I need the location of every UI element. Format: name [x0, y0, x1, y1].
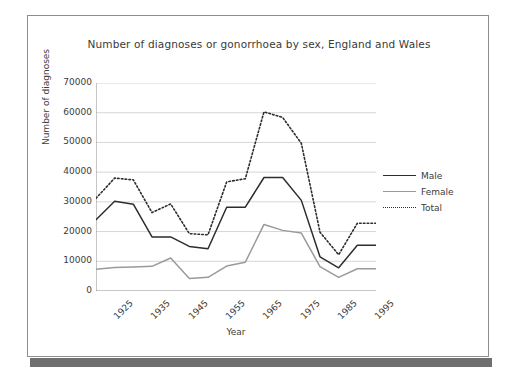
legend-item-female[interactable]: Female: [383, 184, 483, 200]
x-tick-label: 1955: [224, 298, 247, 321]
plot-area: [96, 83, 376, 291]
x-tick-label: 1965: [261, 298, 284, 321]
x-tick-label: 1975: [298, 298, 321, 321]
legend-swatch-total-icon: [383, 203, 416, 213]
series-line-male: [96, 177, 376, 267]
plot-svg: [96, 83, 376, 291]
chart-legend: MaleFemaleTotal: [383, 168, 483, 216]
legend-item-male[interactable]: Male: [383, 168, 483, 184]
x-tick-label: 1985: [336, 298, 359, 321]
slide-shadow: [30, 358, 492, 367]
legend-label: Female: [421, 187, 454, 197]
slide-card: Number of diagnoses or gonorrhoea by sex…: [27, 15, 489, 357]
x-tick-label: 1935: [149, 298, 172, 321]
series-line-female: [96, 224, 376, 278]
legend-label: Total: [421, 203, 442, 213]
legend-label: Male: [421, 171, 442, 181]
series-line-total: [96, 112, 376, 255]
x-tick-label: 1925: [112, 298, 135, 321]
legend-swatch-female-icon: [383, 187, 416, 197]
legend-swatch-male-icon: [383, 171, 416, 181]
legend-item-total[interactable]: Total: [383, 200, 483, 216]
x-tick-label: 1995: [373, 298, 396, 321]
x-tick-label: 1945: [186, 298, 209, 321]
chart: Number of diagnoses or gonorrhoea by sex…: [28, 16, 490, 358]
